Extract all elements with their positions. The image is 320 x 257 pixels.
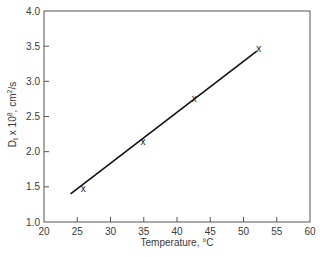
- fit-line: [71, 51, 257, 194]
- chart: 202530354045505560 1.01.52.02.53.03.54.0…: [0, 0, 320, 257]
- x-tick-label: 25: [72, 226, 84, 237]
- y-tick-label: 1.5: [26, 181, 40, 192]
- x-tick-label: 45: [205, 226, 217, 237]
- data-point-marker: x: [256, 43, 261, 54]
- y-title-main: D: [7, 140, 18, 147]
- x-tick-label: 30: [105, 226, 117, 237]
- y-tick-label: 3.0: [26, 76, 40, 87]
- y-axis-title: Dt x 108, cm2/s: [6, 82, 19, 147]
- y-axis: 1.01.52.02.53.03.54.0: [26, 6, 49, 228]
- data-series: xxxx: [71, 43, 262, 193]
- x-tick-label: 60: [304, 226, 316, 237]
- y-title-mid: x 10: [7, 116, 18, 138]
- y-tick-label: 1.0: [26, 217, 40, 228]
- y-tick-label: 4.0: [26, 6, 40, 17]
- y-title-end: /s: [7, 82, 18, 90]
- x-axis: 202530354045505560: [38, 217, 316, 237]
- x-axis-title: Temperature, °C: [141, 237, 214, 248]
- x-tick-label: 35: [138, 226, 150, 237]
- x-tick-label: 40: [171, 226, 183, 237]
- x-tick-label: 55: [271, 226, 283, 237]
- x-tick-label: 50: [238, 226, 250, 237]
- y-title-tail: , cm: [7, 94, 18, 113]
- y-tick-label: 3.5: [26, 41, 40, 52]
- y-tick-label: 2.0: [26, 146, 40, 157]
- y-tick-label: 2.5: [26, 111, 40, 122]
- x-tick-label: 20: [38, 226, 50, 237]
